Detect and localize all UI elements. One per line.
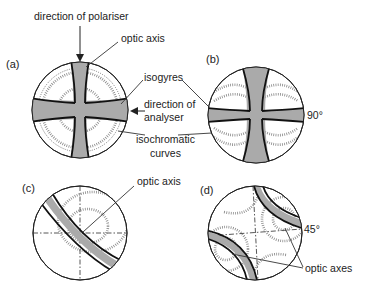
isogyres-label: isogyres: [144, 71, 183, 83]
panel-c: (c): [22, 182, 128, 280]
panel-a: (a): [6, 58, 130, 160]
panel-label-b: (b): [206, 53, 219, 65]
rotation-angle-d: 45°: [304, 223, 320, 235]
optic-axes-label-d: optic axes: [305, 262, 352, 274]
panel-label-c: (c): [22, 182, 35, 194]
analyser-label-line1: direction of: [144, 98, 195, 110]
isogyre-cross-a: [30, 60, 130, 160]
isochromatic-label-line2: curves: [150, 147, 181, 159]
rotation-angle-b: 90°: [307, 109, 323, 121]
polariser-label: direction of polariser: [34, 10, 129, 22]
optic-axis-label-a: optic axis: [121, 32, 165, 44]
panel-label-d: (d): [200, 184, 213, 196]
panel-b: (b) 90°: [206, 53, 323, 165]
analyser-label-line2: analyser: [144, 111, 184, 123]
optic-axis-leader-a: [86, 42, 118, 67]
optic-axis-label-c: optic axis: [137, 175, 181, 187]
conoscopic-figures-diagram: (a) direction of polariser optic axis is…: [0, 0, 368, 295]
panel-label-a: (a): [6, 58, 19, 70]
isogyre-cross-b: [206, 65, 306, 165]
